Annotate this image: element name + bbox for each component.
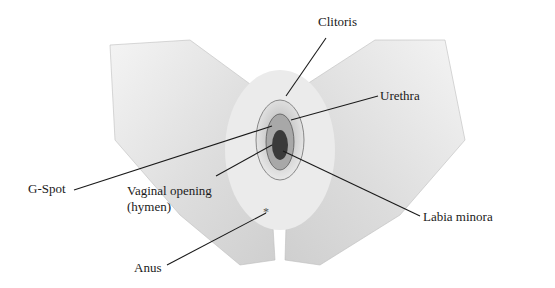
label-g-spot: G-Spot (28, 181, 66, 196)
label-vaginal-opening: Vaginal opening (127, 183, 212, 198)
label-anus: Anus (134, 260, 161, 275)
opening-shape (272, 130, 288, 160)
anatomy-diagram: * (0, 0, 555, 288)
label-vaginal-opening-sub: (hymen) (127, 199, 171, 214)
label-urethra: Urethra (380, 88, 420, 103)
label-clitoris: Clitoris (318, 14, 357, 29)
label-labia-minora: Labia minora (423, 209, 493, 224)
anus-marker: * (263, 205, 269, 219)
